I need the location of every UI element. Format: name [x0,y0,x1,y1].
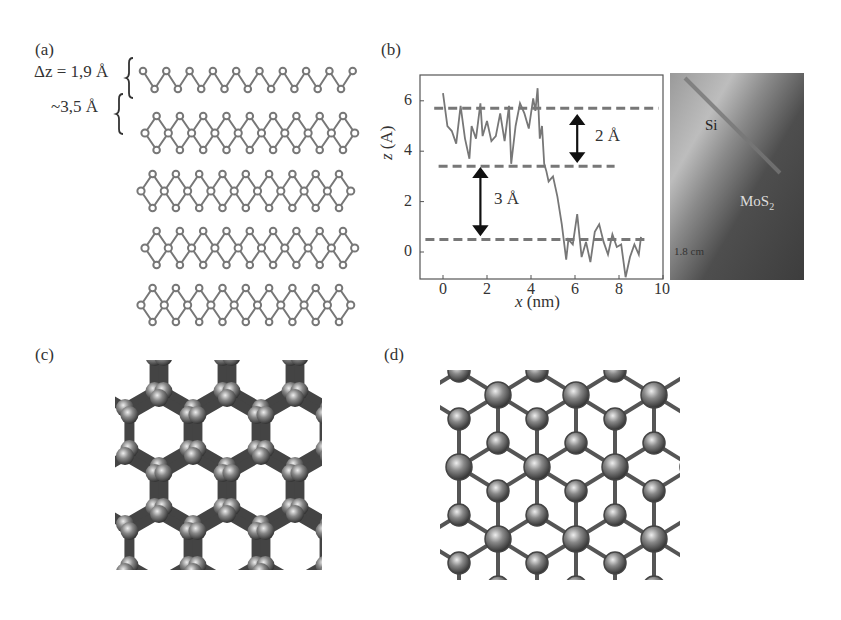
y-tick-label: 6 [404,91,412,109]
y-tick-label: 0 [404,242,412,260]
si-label: Si [705,117,718,134]
y-tick-label: 4 [404,141,412,159]
profile-line [443,88,641,277]
x-tick-label: 6 [571,280,579,298]
panel-c-label: (c) [35,345,54,365]
x-tick-label: 0 [439,280,447,298]
x-tick-label: 8 [615,280,623,298]
scale-label: 1.8 cm [674,245,704,257]
y-axis-title: z (A) [377,126,397,160]
honeycomb-lattice [115,360,322,570]
plot-frame [420,75,663,279]
trigonal-lattice [440,370,680,580]
x-tick-label: 2 [483,280,491,298]
x-tick-label: 10 [654,280,670,298]
y-tick-label: 2 [404,192,412,210]
arrow-label-3a: 3 Å [494,189,519,209]
arrow-label-2a: 2 Å [595,126,620,146]
x-axis-title: x (nm) [515,292,560,312]
panel-d-label: (d) [384,345,404,365]
stm-image: Si MoS2 1.8 cm [670,73,804,280]
mos2-label: MoS2 [740,193,774,212]
